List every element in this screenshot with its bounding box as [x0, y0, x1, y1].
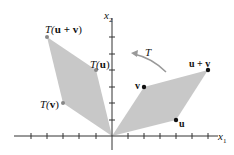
label-u: u: [179, 119, 185, 129]
arrow-head-icon: [131, 50, 138, 57]
x2-axis-label: x2: [104, 10, 112, 24]
point-u: [174, 118, 178, 122]
point-Tv: [61, 101, 65, 105]
label-Tu: T(u): [90, 59, 110, 70]
x1-axis-label: x1: [218, 131, 226, 145]
point-v: [142, 85, 146, 89]
point-Tuv: [45, 35, 49, 39]
label-Tv: T(v): [40, 99, 59, 110]
diagram-canvas: [0, 0, 234, 155]
label-u-plus-v: u + v: [189, 59, 210, 69]
original-parallelogram: [112, 70, 208, 136]
label-Tuv: T(u + v): [45, 24, 82, 35]
image-parallelogram: [47, 37, 112, 136]
transform-label: T: [145, 47, 151, 58]
label-v: v: [135, 81, 140, 91]
